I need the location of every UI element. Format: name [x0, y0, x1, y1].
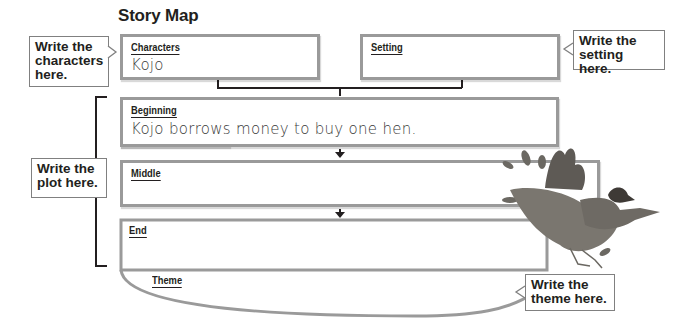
plot-callout-text: Write the plot here. [37, 161, 98, 190]
characters-value[interactable]: Kojo [131, 56, 164, 74]
characters-label: Characters [131, 41, 180, 55]
arrow-down-icon [335, 152, 345, 158]
beginning-label: Beginning [131, 104, 177, 118]
setting-callout: Write the setting here. [573, 30, 665, 70]
middle-label: Middle [131, 167, 161, 181]
hen-illustration-icon [490, 140, 670, 270]
callout-pointer-icon [514, 284, 526, 300]
theme-callout: Write the theme here. [525, 274, 615, 311]
plot-callout: Write the plot here. [31, 158, 107, 198]
end-box[interactable]: End [121, 220, 551, 268]
characters-callout-text: Write the characters here. [35, 39, 103, 82]
setting-callout-text: Write the setting here. [579, 33, 637, 76]
page-title: Story Map [118, 6, 198, 26]
characters-callout: Write the characters here. [29, 36, 109, 87]
setting-box[interactable]: Setting [360, 34, 560, 80]
callout-pointer-icon [562, 41, 574, 57]
connector-setting-down [461, 79, 463, 88]
theme-label: Theme [152, 274, 182, 288]
connector-to-beginning [339, 87, 341, 96]
plot-bracket-bottom [95, 265, 107, 267]
theme-box[interactable]: Theme [144, 270, 504, 310]
end-label: End [129, 224, 147, 238]
callout-pointer-icon [107, 44, 119, 60]
setting-label: Setting [371, 41, 403, 55]
beginning-value[interactable]: Kojo borrows money to buy one hen. [131, 120, 417, 138]
theme-callout-text: Write the theme here. [531, 277, 607, 306]
characters-box[interactable]: Characters Kojo [120, 34, 320, 80]
